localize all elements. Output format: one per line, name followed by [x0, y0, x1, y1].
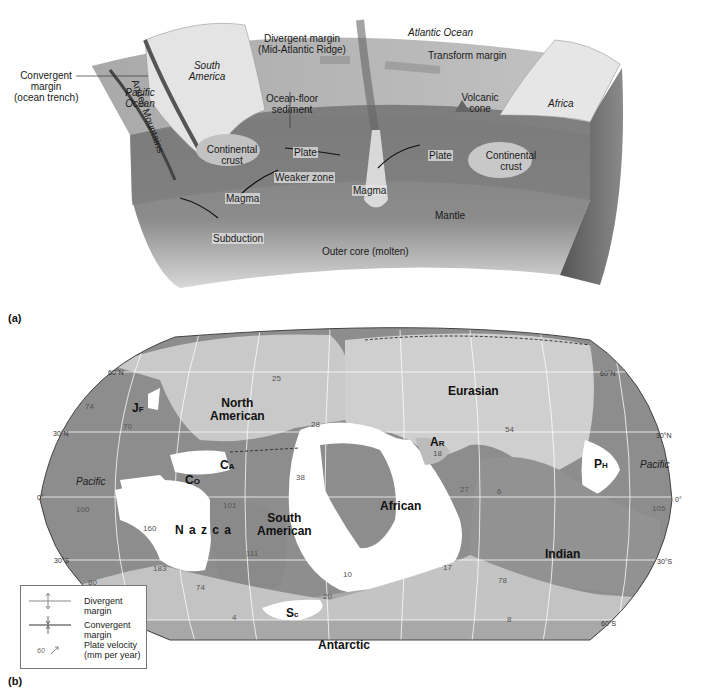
- velocity-label: 27: [460, 485, 469, 494]
- velocity-arrow-icon: [49, 644, 61, 656]
- lat-label: 30°S: [657, 558, 672, 565]
- lat-label: 60°N: [600, 370, 616, 377]
- label-small: R: [439, 439, 445, 448]
- convergent-margin-symbol: [27, 614, 77, 636]
- lat-label: 60°S: [601, 620, 616, 627]
- pacific-east-label: Pacific: [640, 459, 669, 470]
- velocity-label: 6: [497, 487, 501, 496]
- label-small: c: [294, 610, 298, 619]
- legend-velocity-sample: 60: [37, 647, 45, 654]
- velocity-label: 74: [196, 583, 205, 592]
- south-american-plate-label: South American: [257, 512, 312, 538]
- lat-label: 60°N: [108, 369, 124, 376]
- scotia-plate-label: Sc: [286, 607, 298, 621]
- velocity-label: 28: [311, 420, 320, 429]
- label-line: American: [210, 410, 265, 423]
- velocity-label: 38: [296, 473, 305, 482]
- velocity-label: 183: [153, 564, 166, 573]
- juan-de-fuca-plate-label: JF: [132, 402, 144, 416]
- pacific-west-label: Pacific: [76, 476, 105, 487]
- label-small: H: [602, 461, 608, 470]
- legend-convergent-label: Convergent margin: [84, 620, 146, 640]
- label-big: C: [185, 473, 194, 487]
- velocity-label: 111: [246, 549, 258, 558]
- lat-label: 0°: [37, 494, 44, 501]
- legend-divergent: Divergent margin: [21, 590, 146, 612]
- label-big: J: [132, 401, 139, 415]
- velocity-label: 54: [505, 425, 514, 434]
- velocity-label: 10: [343, 570, 352, 579]
- indian-plate-label: Indian: [545, 548, 580, 561]
- lat-label: 30°S: [54, 557, 69, 564]
- velocity-label: 100: [76, 505, 89, 514]
- cocos-plate-label: CO: [185, 474, 200, 488]
- legend-divergent-label: Divergent margin: [84, 596, 146, 616]
- velocity-label: 18: [433, 449, 442, 458]
- philippine-plate-label: PH: [594, 458, 608, 472]
- lat-label: 0°: [675, 496, 682, 503]
- legend-velocity-label: Plate velocity (mm per year): [84, 640, 141, 660]
- label-small: O: [194, 477, 200, 486]
- map-legend: Divergent margin Convergent margin 60 Pl…: [20, 585, 147, 669]
- label-big: C: [220, 458, 229, 472]
- velocity-label: 74: [85, 402, 94, 411]
- velocity-label: 8: [507, 615, 511, 624]
- divergent-margin-symbol: [27, 590, 77, 612]
- velocity-label: 101: [223, 501, 236, 510]
- velocity-label: 17: [443, 563, 452, 572]
- velocity-label: 20: [323, 592, 332, 601]
- lat-label: 30°N: [53, 430, 69, 437]
- label-big: A: [430, 435, 439, 449]
- african-plate-label: African: [380, 500, 421, 513]
- nazca-plate-label: N a z c a: [175, 524, 232, 537]
- arabian-plate-label: AR: [430, 436, 444, 450]
- label-line: Plate velocity: [84, 640, 141, 650]
- panel-b-tag: (b): [8, 675, 22, 687]
- label-line: American: [257, 525, 312, 538]
- velocity-label: 4: [232, 613, 236, 622]
- north-american-plate-label: North American: [210, 397, 265, 423]
- label-line: (mm per year): [84, 650, 141, 660]
- eurasian-plate-label: Eurasian: [448, 385, 499, 398]
- velocity-label: 78: [498, 576, 507, 585]
- velocity-label: 160: [143, 524, 156, 533]
- legend-velocity: 60 Plate velocity (mm per year): [21, 638, 146, 666]
- velocity-label: 105: [652, 504, 665, 513]
- label-small: A: [229, 462, 235, 471]
- label-small: F: [139, 405, 144, 414]
- velocity-label: 25: [272, 374, 281, 383]
- label-big: P: [594, 457, 602, 471]
- legend-convergent: Convergent margin: [21, 614, 146, 636]
- velocity-label: 70: [123, 422, 132, 431]
- antarctic-plate-label: Antarctic: [318, 639, 370, 652]
- lat-label: 30°N: [656, 432, 672, 439]
- caribbean-plate-label: CA: [220, 459, 234, 473]
- label-big: S: [286, 606, 294, 620]
